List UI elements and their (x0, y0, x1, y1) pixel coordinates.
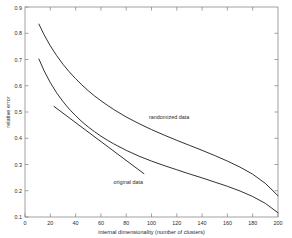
x-tick-label: 40 (73, 220, 79, 226)
x-tick-label: 200 (274, 220, 283, 226)
series-tangent-line (54, 106, 144, 173)
y-tick-label: 0.7 (15, 57, 23, 63)
x-tick-label: 120 (172, 220, 181, 226)
annotation-original-data: original data (114, 179, 143, 185)
x-tick-label: 180 (248, 220, 257, 226)
y-tick-label: 0.8 (15, 30, 23, 36)
x-tick-label: 100 (147, 220, 156, 226)
x-tick-label: 140 (198, 220, 207, 226)
x-tick-label: 20 (47, 220, 53, 226)
y-axis-ticks (25, 7, 29, 217)
y-tick-label: 0.3 (15, 162, 23, 168)
y-tick-label: 0.2 (15, 188, 23, 194)
y-tick-label: 0.4 (15, 135, 23, 141)
y-tick-label: 0.6 (15, 83, 23, 89)
y-axis-ticks-right (275, 33, 279, 191)
annotation-randomized-data: randomized data (149, 114, 189, 120)
y-tick-label: 0.1 (15, 214, 23, 220)
x-tick-labels: 0 20 40 60 80 100 120 140 160 180 200 (24, 220, 283, 226)
x-axis-ticks (25, 214, 278, 218)
y-tick-label: 0.9 (15, 5, 23, 11)
series-randomized-data (39, 24, 278, 196)
x-tick-label: 0 (24, 220, 27, 226)
y-axis-title: relative error (5, 96, 11, 128)
x-axis-title: internal dimensionality (number of clust… (98, 229, 205, 235)
x-tick-label: 160 (223, 220, 232, 226)
x-axis-ticks-top (50, 7, 252, 11)
chart-canvas: 0 20 40 60 80 100 120 140 160 180 200 0.… (0, 0, 292, 238)
series-original-data (39, 59, 278, 213)
figure-container: 0 20 40 60 80 100 120 140 160 180 200 0.… (0, 0, 292, 238)
x-tick-label: 60 (98, 220, 104, 226)
y-tick-labels: 0.1 0.2 0.3 0.4 0.5 0.6 0.7 0.8 0.9 (15, 5, 23, 221)
axes-frame (25, 7, 278, 217)
x-tick-label: 80 (123, 220, 129, 226)
y-tick-label: 0.5 (15, 109, 23, 115)
